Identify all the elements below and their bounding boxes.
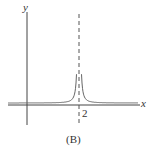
curve-right [82, 74, 139, 103]
curve-left [8, 74, 77, 103]
y-axis-label: y [23, 1, 28, 13]
graph [0, 0, 148, 147]
x-axis-label: x [141, 97, 146, 109]
x-tick-2: 2 [82, 107, 88, 119]
caption: (B) [66, 133, 81, 145]
